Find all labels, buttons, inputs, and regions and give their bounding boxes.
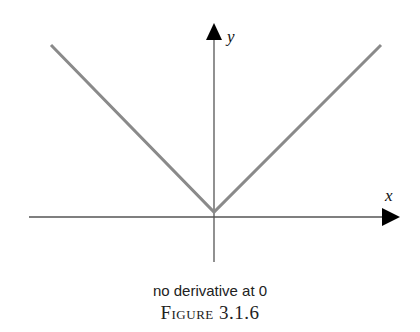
x-axis-arrow-icon [382,208,400,226]
y-axis-label: y [225,27,235,46]
abs-value-curve [51,45,381,212]
y-axis-arrow-icon [206,23,222,40]
figure-caption: no derivative at 0 [0,282,420,299]
figure-label: Figure 3.1.6 [0,302,420,324]
x-axis-label: x [384,186,393,205]
